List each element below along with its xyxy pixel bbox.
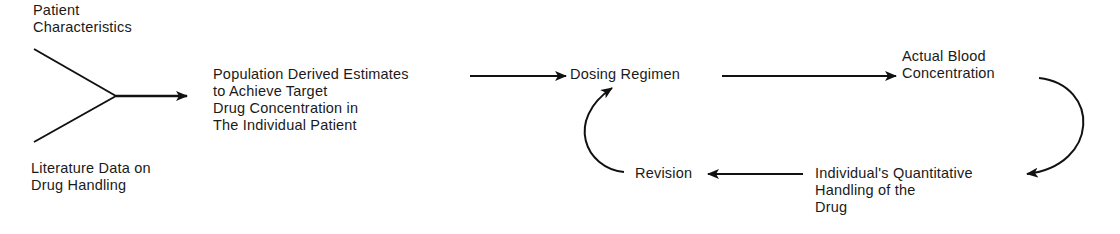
node-population-estimates: Population Derived Estimates to Achieve … bbox=[213, 66, 409, 134]
arrow-revision-to-dosing bbox=[585, 88, 624, 172]
node-literature-data: Literature Data on Drug Handling bbox=[31, 160, 151, 194]
node-actual-blood-concentration: Actual Blood Concentration bbox=[902, 48, 995, 82]
node-individual-handling: Individual's Quantitative Handling of th… bbox=[815, 165, 973, 216]
merge-connector bbox=[34, 49, 187, 142]
node-patient-characteristics: Patient Characteristics bbox=[33, 2, 132, 36]
node-dosing-regimen: Dosing Regimen bbox=[570, 66, 680, 83]
node-revision: Revision bbox=[635, 165, 692, 182]
arrow-blood-to-individual bbox=[1027, 78, 1083, 174]
